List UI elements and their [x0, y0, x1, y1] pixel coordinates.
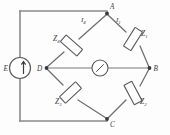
arm-a-b-lower-segment — [140, 46, 149, 67]
circuit-diagram-figure: E Z4 Z1 — [0, 0, 170, 135]
arm-a-d-lower-segment — [47, 52, 64, 67]
node-label-a: A — [109, 3, 115, 11]
node-dot-b — [148, 66, 152, 70]
impedance-z2-label: Z2 — [140, 97, 147, 107]
arm-d-c-lower-segment — [78, 100, 106, 118]
impedance-z1-label: Z1 — [141, 29, 148, 39]
arm-b-c-upper-segment — [140, 69, 149, 86]
node-label-c: C — [110, 121, 115, 129]
circuit-svg: E Z4 Z1 — [0, 0, 170, 135]
arm-d-c-upper-segment — [47, 69, 63, 85]
source-symbol-group — [10, 58, 31, 79]
node-dot-d — [45, 66, 49, 70]
impedance-z4-label: Z4 — [53, 34, 60, 44]
node-label-d: D — [36, 65, 43, 73]
detector-branch — [47, 60, 149, 76]
arm-b-c-lower-segment — [108, 100, 126, 118]
node-dot-c — [105, 117, 109, 121]
source-label: E — [3, 64, 9, 73]
current-label-i4: I4 — [80, 16, 86, 25]
current-label-i1: I1 — [115, 16, 121, 25]
impedance-z1-symbol — [123, 27, 142, 50]
node-label-b: B — [154, 65, 159, 73]
node-dot-a — [105, 12, 109, 16]
source-circle — [10, 58, 31, 79]
